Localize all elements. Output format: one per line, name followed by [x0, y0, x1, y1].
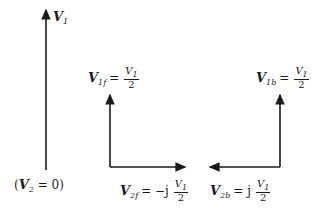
v2b-equals: = j	[233, 184, 251, 198]
v1-symbol: V	[53, 9, 63, 24]
v1b-symbol: V	[256, 70, 266, 85]
v1f-label: V1f=V12	[88, 66, 139, 90]
v1f-num-subscript: 1	[132, 70, 137, 79]
v1f-equals: =	[109, 71, 119, 85]
v1b-fraction: V12	[294, 66, 308, 90]
v2b-label: V2b= jV12	[210, 179, 270, 203]
v2f-subscript: 2f	[130, 191, 138, 200]
v1b-num-symbol: V	[295, 65, 302, 76]
v2f-num-symbol: V	[175, 178, 182, 189]
v2f-symbol: V	[120, 183, 130, 198]
v1-subscript: 1	[63, 17, 68, 26]
v2f-label: V2f= −jV12	[120, 179, 188, 203]
v1b-label: V1b=V12	[256, 66, 309, 90]
v2f-fraction: V12	[174, 179, 188, 203]
v1b-subscript: 1b	[266, 78, 276, 87]
v2-symbol: V	[19, 177, 29, 192]
v2f-num-subscript: 1	[182, 183, 187, 192]
v1b-equals: =	[279, 71, 289, 85]
v2-zero-value: = 0)	[34, 178, 64, 192]
v1f-subscript: 1f	[98, 78, 106, 87]
v2b-symbol: V	[210, 183, 220, 198]
v2b-denominator: 2	[256, 193, 270, 203]
v2b-subscript: 2b	[220, 191, 230, 200]
v2-zero-label: (V2 = 0)	[14, 178, 64, 194]
v2f-equals: = −j	[141, 184, 169, 198]
v1f-denominator: 2	[124, 80, 138, 90]
v1-label: V1	[53, 10, 68, 26]
v1f-fraction: V12	[124, 66, 138, 90]
v1f-symbol: V	[88, 70, 98, 85]
v2f-denominator: 2	[174, 193, 188, 203]
v2b-fraction: V12	[256, 179, 270, 203]
v1b-denominator: 2	[294, 80, 308, 90]
v1b-num-subscript: 1	[303, 70, 308, 79]
v2b-num-subscript: 1	[264, 183, 269, 192]
